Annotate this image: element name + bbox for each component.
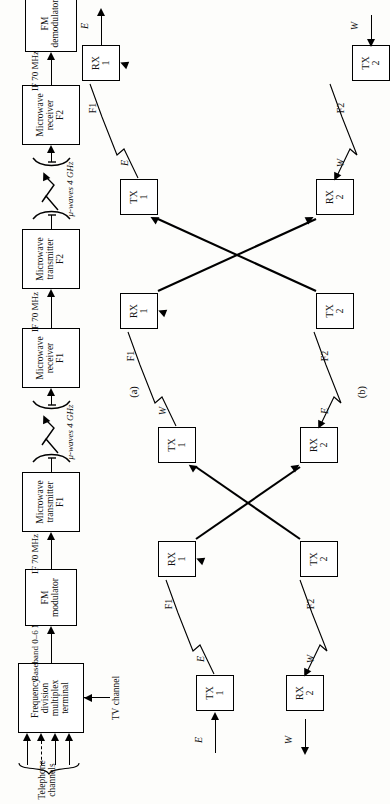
label-line: channels bbox=[47, 763, 57, 796]
w-input-arrow bbox=[367, 39, 375, 47]
block-line: 2 bbox=[371, 61, 382, 66]
